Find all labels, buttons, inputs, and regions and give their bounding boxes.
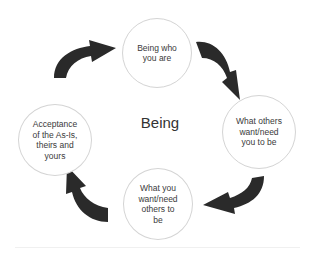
node-label: What others want/need you to be (236, 116, 282, 148)
node-acceptance: Acceptance of the As-Is, theirs and your… (18, 104, 92, 176)
arrow-right-to-bottom (203, 176, 264, 214)
arrow-top-to-right (196, 42, 240, 100)
node-label: Being who you are (137, 43, 177, 64)
node-label: What you want/need others to be (138, 183, 177, 225)
node-label: Acceptance of the As-Is, theirs and your… (33, 119, 78, 161)
arrow-bottom-to-left (66, 166, 108, 222)
node-being-who-you-are: Being who you are (122, 18, 192, 88)
node-what-you-want: What you want/need others to be (123, 168, 193, 240)
diagram-title: Being (120, 114, 200, 131)
node-what-others-want: What others want/need you to be (222, 95, 296, 169)
divider (15, 247, 300, 248)
arrow-left-to-top (54, 40, 116, 78)
